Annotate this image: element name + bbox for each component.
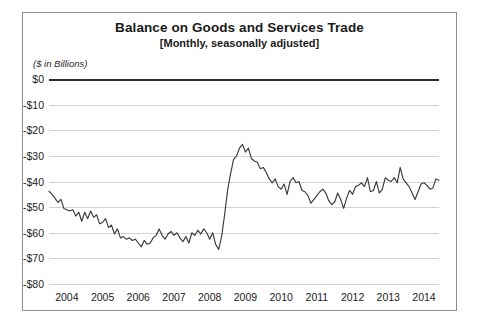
x-axis-tick-label: 2011 bbox=[306, 291, 329, 303]
chart-figure: Balance on Goods and Services Trade [Mon… bbox=[22, 12, 457, 311]
y-axis-tick-label: -$10 bbox=[23, 99, 44, 111]
y-axis-tick-label: $0 bbox=[32, 73, 44, 85]
y-axis-tick-label: -$80 bbox=[23, 278, 44, 290]
plot-area: $0-$10-$20-$30-$40-$50-$60-$70-$80 20042… bbox=[49, 79, 439, 284]
y-axis-tick-label: -$60 bbox=[23, 227, 44, 239]
x-axis-tick-label: 2008 bbox=[198, 291, 221, 303]
x-axis-tick-label: 2012 bbox=[341, 291, 364, 303]
y-axis-tick-label: -$70 bbox=[23, 252, 44, 264]
x-axis-tick-label: 2007 bbox=[162, 291, 185, 303]
x-axis-tick-label: 2004 bbox=[55, 291, 78, 303]
x-axis-tick-label: 2013 bbox=[377, 291, 400, 303]
page-title: Balance on Goods and Services Trade bbox=[23, 19, 456, 36]
y-axis-units-label: ($ in Billions) bbox=[33, 58, 87, 69]
y-axis-tick-label: -$50 bbox=[23, 201, 44, 213]
x-axis-tick-label: 2014 bbox=[412, 291, 435, 303]
y-axis-tick-label: -$30 bbox=[23, 150, 44, 162]
chart-subtitle: [Monthly, seasonally adjusted] bbox=[23, 36, 456, 51]
series-svg bbox=[49, 79, 439, 284]
y-axis-tick-label: -$40 bbox=[23, 176, 44, 188]
y-axis-tick-label: -$20 bbox=[23, 124, 44, 136]
x-axis-tick-label: 2010 bbox=[269, 291, 292, 303]
x-axis-tick-label: 2006 bbox=[127, 291, 150, 303]
series-line-balance bbox=[49, 144, 439, 249]
x-axis-tick-label: 2005 bbox=[91, 291, 114, 303]
x-axis-tick-label: 2009 bbox=[234, 291, 257, 303]
title-block: Balance on Goods and Services Trade [Mon… bbox=[23, 19, 456, 51]
gridline bbox=[49, 284, 439, 285]
